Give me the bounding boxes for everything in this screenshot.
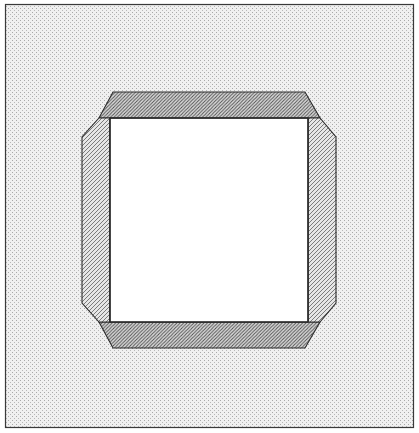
left-flap-shape (82, 118, 110, 322)
technical-drawing (0, 0, 419, 433)
bottom-flap-shape (99, 322, 320, 348)
bottom-flap (99, 322, 320, 348)
right-flap (308, 118, 336, 322)
figure-container: Carton Blank With Folded Flaps Technical… (0, 0, 419, 433)
top-flap (99, 92, 320, 118)
center-panel (110, 118, 308, 322)
top-flap-shape (99, 92, 320, 118)
right-flap-shape (308, 118, 336, 322)
center-panel-shape (110, 118, 308, 322)
left-flap (82, 118, 110, 322)
